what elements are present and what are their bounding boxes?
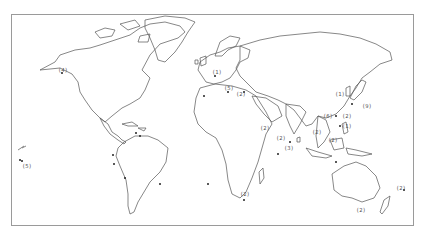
greenland xyxy=(145,16,195,62)
label-europe-south: (5) xyxy=(224,85,234,91)
scandinavia xyxy=(215,36,240,56)
label-indochina: (2) xyxy=(312,129,322,135)
site-marker xyxy=(207,183,209,185)
site-marker xyxy=(351,103,353,105)
world-map: (4) (5) (1) (5) (2) (2) (2) (3) (6) (2) … xyxy=(0,0,424,244)
new-zealand xyxy=(380,196,390,214)
label-south-africa: (2) xyxy=(240,191,250,197)
site-marker xyxy=(214,75,216,77)
label-hawaii: (5) xyxy=(22,163,32,169)
label-japan: (9) xyxy=(362,103,372,109)
site-marker xyxy=(124,177,126,179)
label-europe-north: (1) xyxy=(212,69,222,75)
site-marker xyxy=(113,163,115,165)
africa xyxy=(194,84,272,198)
site-marker xyxy=(203,95,205,97)
british-isles xyxy=(195,56,206,66)
site-marker xyxy=(339,125,341,127)
label-china-south: (6) xyxy=(323,113,333,119)
site-marker xyxy=(289,141,291,143)
site-marker xyxy=(335,161,337,163)
label-east-med: (2) xyxy=(236,91,246,97)
india xyxy=(286,104,306,134)
arctic-islands xyxy=(95,20,150,42)
site-marker xyxy=(227,91,229,93)
label-sri-lanka: (3) xyxy=(284,145,294,151)
japan xyxy=(350,80,366,100)
label-philippines: (1) xyxy=(342,123,352,129)
label-pacific-east: (2) xyxy=(396,185,406,191)
site-marker xyxy=(112,154,114,156)
sri-lanka xyxy=(297,137,300,142)
caribbean-islands xyxy=(122,122,146,131)
site-marker xyxy=(19,159,21,161)
site-marker xyxy=(159,183,161,185)
madagascar xyxy=(259,168,264,184)
label-arabia: (2) xyxy=(260,125,270,131)
central-america xyxy=(100,118,126,144)
label-borneo: (2) xyxy=(328,137,338,143)
site-marker xyxy=(139,135,141,137)
site-marker xyxy=(277,153,279,155)
hawaii-islands xyxy=(18,146,26,150)
south-america xyxy=(116,136,168,214)
asia xyxy=(236,32,392,126)
label-taiwan: (2) xyxy=(342,113,352,119)
label-australia-south: (2) xyxy=(356,207,366,213)
label-india: (2) xyxy=(276,135,286,141)
australia xyxy=(332,162,380,202)
indonesia xyxy=(306,138,372,158)
label-alaska: (4) xyxy=(58,67,68,73)
site-markers xyxy=(19,72,405,201)
site-marker xyxy=(21,160,23,162)
site-marker xyxy=(135,132,137,134)
korea xyxy=(346,86,350,96)
label-korea: (1) xyxy=(335,91,345,97)
site-marker xyxy=(335,115,337,117)
site-marker xyxy=(243,199,245,201)
